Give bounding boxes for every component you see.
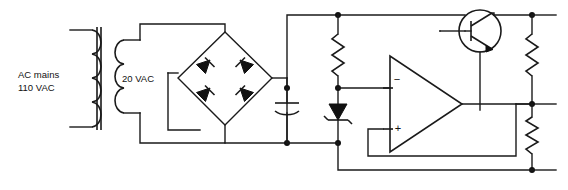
diode-bridge-upper-right — [236, 58, 254, 74]
positive-bus — [335, 12, 556, 18]
divider-resistor-lower — [526, 104, 556, 173]
divider-resistor-upper — [526, 15, 538, 107]
op-amp-error-amplifier: − + — [383, 56, 532, 152]
secondary-voltage-label: 20 VAC — [122, 73, 154, 84]
rectifier-output-wiring — [225, 15, 338, 146]
zener-diode — [324, 85, 352, 146]
opamp-noninverting-label: + — [395, 122, 401, 134]
circuit-schematic: − + — [0, 0, 568, 190]
filter-capacitor — [275, 88, 299, 143]
diode-bridge-upper-left — [197, 58, 215, 74]
opamp-inverting-label: − — [394, 73, 400, 85]
bias-resistor — [332, 15, 344, 88]
bridge-rectifier — [178, 32, 272, 125]
source-label-line2: 110 VAC — [18, 82, 55, 93]
source-label-line1: AC mains — [18, 69, 59, 80]
schematic-canvas: − + — [0, 0, 568, 190]
